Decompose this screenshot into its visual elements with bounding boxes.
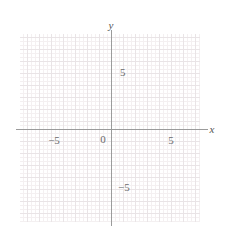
y-axis-label: y: [108, 19, 114, 31]
origin-label: 0: [100, 133, 106, 145]
y-tick-label-negative-5: −5: [118, 181, 130, 193]
x-tick-label-negative-5: −5: [48, 134, 60, 146]
coordinate-plane-svg: x y −5 5 0 5 −5: [0, 0, 229, 238]
x-tick-label-positive-5: 5: [168, 134, 174, 146]
x-axis-label: x: [209, 123, 215, 135]
y-tick-label-positive-5: 5: [120, 66, 126, 78]
coordinate-plane-figure: x y −5 5 0 5 −5: [0, 0, 229, 238]
